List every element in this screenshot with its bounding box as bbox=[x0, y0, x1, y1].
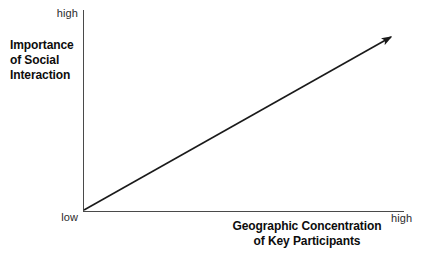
x-axis-title: Geographic Concentration of Key Particip… bbox=[228, 219, 386, 249]
y-axis-title-line-1: Importance bbox=[10, 38, 74, 52]
y-axis-high-label: high bbox=[0, 7, 78, 19]
y-axis-line bbox=[83, 10, 84, 212]
y-axis-title-line-2: of Social bbox=[10, 53, 59, 67]
y-axis-low-label: low bbox=[0, 211, 78, 223]
x-axis-line bbox=[83, 211, 404, 212]
x-axis-high-label: high bbox=[391, 212, 412, 224]
chart-figure: high low high Importance of Social Inter… bbox=[0, 0, 421, 260]
x-axis-title-line-1: Geographic Concentration bbox=[233, 219, 382, 233]
x-axis-title-line-2: of Key Participants bbox=[228, 234, 386, 249]
y-axis-title: Importance of Social Interaction bbox=[10, 38, 82, 83]
y-axis-title-line-3: Interaction bbox=[10, 68, 70, 82]
